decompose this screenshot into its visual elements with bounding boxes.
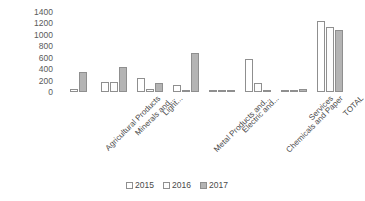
x-axis-labels: Agricultural ProductsMinerals and...Ligh… bbox=[0, 92, 354, 172]
bar-2017[interactable] bbox=[155, 83, 163, 92]
bar-2017[interactable] bbox=[119, 67, 127, 92]
bar-2015[interactable] bbox=[317, 21, 325, 92]
x-axis-label: Chemicals and Paper bbox=[284, 94, 344, 154]
bar-group bbox=[240, 12, 276, 92]
bar-2015[interactable] bbox=[101, 82, 109, 92]
bar-group bbox=[60, 12, 96, 92]
legend-item[interactable]: 2017 bbox=[200, 181, 228, 190]
legend-label: 2015 bbox=[135, 181, 154, 190]
bar-group bbox=[168, 12, 204, 92]
y-axis-tick: 600 bbox=[39, 54, 53, 63]
bar-group bbox=[96, 12, 132, 92]
y-axis-tick: 400 bbox=[39, 65, 53, 74]
chart-legend: 201520162017 bbox=[0, 181, 354, 190]
legend-item[interactable]: 2015 bbox=[126, 181, 154, 190]
y-axis-tick: 1200 bbox=[34, 19, 53, 28]
y-axis-tick: 1400 bbox=[34, 8, 53, 17]
legend-label: 2017 bbox=[209, 181, 228, 190]
bar-2017[interactable] bbox=[79, 72, 87, 92]
y-axis-tick: 1000 bbox=[34, 31, 53, 40]
plot-area bbox=[60, 12, 348, 92]
y-axis-tick: 800 bbox=[39, 42, 53, 51]
y-axis-tick: 200 bbox=[39, 77, 53, 86]
bar-2016[interactable] bbox=[326, 27, 334, 92]
bar-2016[interactable] bbox=[254, 83, 262, 92]
bar-group bbox=[204, 12, 240, 92]
bar-2017[interactable] bbox=[335, 30, 343, 92]
x-axis-label: Light... bbox=[161, 94, 184, 117]
bar-2015[interactable] bbox=[137, 78, 145, 92]
bar-2015[interactable] bbox=[245, 59, 253, 92]
legend-swatch-icon bbox=[163, 182, 170, 189]
bar-2017[interactable] bbox=[191, 53, 199, 92]
legend-swatch-icon bbox=[126, 182, 133, 189]
bar-group bbox=[276, 12, 312, 92]
bar-2016[interactable] bbox=[110, 82, 118, 92]
x-axis-label: TOTAL bbox=[341, 94, 365, 118]
bar-2015[interactable] bbox=[173, 85, 181, 92]
x-axis-label: Metal Products and... bbox=[212, 94, 272, 154]
bar-group bbox=[132, 12, 168, 92]
legend-label: 2016 bbox=[172, 181, 191, 190]
legend-item[interactable]: 2016 bbox=[163, 181, 191, 190]
legend-swatch-icon bbox=[200, 182, 207, 189]
y-axis: 1400120010008006004002000 bbox=[0, 8, 58, 92]
bar-group bbox=[312, 12, 348, 92]
